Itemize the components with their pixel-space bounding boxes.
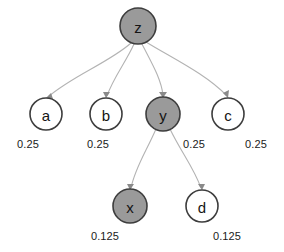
- edge-z-to-b: [107, 44, 134, 96]
- node-b-label: b: [102, 107, 110, 124]
- tree-graph-canvas: z a b y c x d: [0, 0, 284, 252]
- node-x-label: x: [126, 199, 134, 216]
- node-z-label: z: [134, 19, 142, 36]
- weight-label-x: 0.125: [75, 230, 135, 242]
- edges-group: [46, 42, 229, 190]
- edge-z-to-y: [142, 44, 163, 95]
- node-a-label: a: [42, 107, 51, 124]
- weight-label-y: 0.25: [166, 138, 222, 150]
- node-d-label: d: [198, 199, 206, 216]
- weight-label-c: 0.25: [228, 138, 284, 150]
- arrow-head-c: [223, 90, 229, 98]
- weight-label-d: 0.125: [197, 230, 257, 242]
- weight-label-b: 0.25: [70, 138, 126, 150]
- edge-z-to-a: [48, 43, 131, 97]
- node-group-d[interactable]: d: [186, 190, 218, 222]
- edge-z-to-c: [146, 42, 227, 96]
- tree-diagram: z a b y c x d 0.25 0.25 0.25 0.25 0.: [0, 0, 284, 252]
- arrow-head-d: [198, 184, 205, 190]
- node-group-y[interactable]: y: [146, 97, 180, 131]
- node-group-a[interactable]: a: [30, 98, 62, 130]
- node-group-z[interactable]: z: [120, 8, 156, 44]
- node-group-b[interactable]: b: [90, 98, 122, 130]
- node-group-x[interactable]: x: [113, 189, 147, 223]
- node-group-c[interactable]: c: [212, 98, 244, 130]
- node-c-label: c: [224, 107, 232, 124]
- arrow-head-b: [103, 92, 110, 98]
- node-y-label: y: [159, 107, 167, 124]
- edge-y-to-x: [131, 129, 156, 188]
- weight-label-a: 0.25: [0, 138, 56, 150]
